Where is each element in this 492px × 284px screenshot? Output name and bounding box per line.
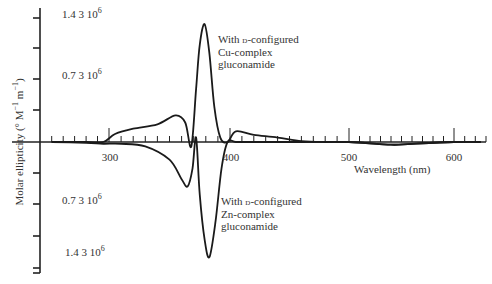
x-tick-label-500: 500 [341,151,358,163]
zn-series-annotation: With d-configured Zn-complex gluconamide [221,195,302,232]
x-axis-ticks [52,128,486,142]
y-axis [33,8,40,273]
x-tick-label-300: 300 [102,151,119,163]
x-tick-label-600: 600 [446,151,463,163]
x-axis-label: Wavelength (nm) [354,163,430,176]
cu-series-annotation: With d-configured Cu-complex gluconamide [218,33,299,70]
y-tick-label-pos-0.7: 0.7 3 106 [62,67,102,81]
x-tick-label-400: 400 [223,151,240,163]
y-tick-label-neg-0.7: 0.7 3 106 [62,192,102,206]
y-tick-label-neg-1.4: 1.4 3 106 [65,244,105,258]
y-axis-label: Molar ellipticity (° M−1 m−1) [11,78,25,205]
y-tick-label-pos-1.4: 1.4 3 106 [62,6,102,20]
